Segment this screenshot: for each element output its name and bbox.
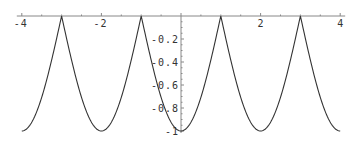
y-tick-label: -0.6: [151, 80, 179, 91]
y-tick-label: -0.2: [151, 34, 179, 45]
axes: [17, 13, 345, 133]
plot-area: -4 -2 2 4 -0.2 -0.4 -0.6 -0.8 -1: [0, 0, 360, 143]
x-tick-label: -4: [14, 18, 28, 29]
x-tick-label: -2: [93, 18, 107, 29]
x-tick-label: 4: [337, 18, 344, 29]
y-tick-labels: -0.2 -0.4 -0.6 -0.8 -1: [151, 34, 179, 137]
x-tick-label: 2: [258, 18, 265, 29]
y-tick-label: -0.4: [151, 57, 179, 68]
y-tick-label: -1: [165, 126, 179, 137]
